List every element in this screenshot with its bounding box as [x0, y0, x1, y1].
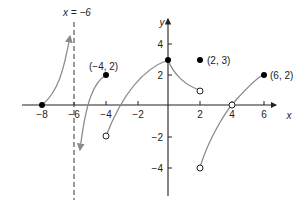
y-tick-label: 4 — [157, 39, 163, 50]
point-label: (2, 3) — [207, 55, 230, 66]
curve-piece-5 — [200, 74, 264, 167]
point-label: (−4, 2) — [89, 61, 118, 72]
closed-point — [165, 57, 171, 63]
x-tick-label: 4 — [229, 109, 235, 120]
x-tick-label: −4 — [100, 109, 112, 120]
open-point — [229, 102, 235, 108]
closed-point — [39, 102, 45, 108]
x-tick-label: 6 — [261, 109, 267, 120]
closed-point — [261, 72, 267, 78]
curve-piece-1 — [42, 36, 70, 105]
y-tick-label: −4 — [152, 163, 164, 174]
point-label: (6, 2) — [270, 70, 293, 81]
closed-point — [103, 72, 109, 78]
asymptote-label: x = −6 — [62, 7, 91, 18]
curve-piece-4 — [168, 60, 200, 90]
y-tick-label: 2 — [157, 70, 163, 81]
x-tick-label: −2 — [132, 109, 144, 120]
open-point — [103, 133, 109, 139]
y-axis-label: y — [159, 17, 166, 28]
open-point — [197, 88, 203, 94]
graph: −8 −6 −4 −2 2 4 6 x 4 2 −2 −4 y x = −6 (… — [0, 0, 308, 203]
x-tick-label: 2 — [197, 109, 203, 120]
closed-point — [197, 57, 203, 63]
x-axis-label: x — [286, 110, 293, 121]
open-point — [197, 165, 203, 171]
y-tick-label: −2 — [152, 132, 164, 143]
x-tick-label: −8 — [36, 109, 48, 120]
